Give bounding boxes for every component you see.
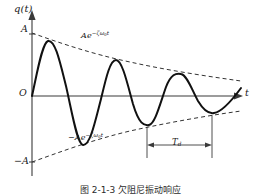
y-tick-label-neg-a: −A [14, 156, 29, 166]
upper-envelope-label: Ae−ζω0t [81, 31, 109, 40]
y-tick-label-a: A [21, 24, 28, 34]
period-label: Td [172, 138, 182, 148]
damped-oscillation-figure: q(t) A O −A t Ae−ζω0t −Ae−ζω0t Td 图 2-1-… [0, 0, 261, 195]
figure-caption: 图 2-1-3 欠阻尼振动响应 [0, 183, 261, 195]
period-arrowhead-left [147, 142, 154, 147]
period-label-sub: d [178, 141, 182, 147]
damped-oscillation-curve [32, 41, 241, 145]
lower-envelope-base: −Ae [68, 133, 86, 142]
upper-exp-t: t [107, 30, 109, 36]
x-axis [32, 92, 243, 99]
plot-canvas [0, 0, 261, 195]
upper-envelope-base: Ae [81, 31, 92, 40]
lower-envelope-label: −Ae−ζω0t [68, 133, 103, 142]
x-axis-label: t [245, 88, 249, 98]
period-arrowhead-right [205, 142, 212, 147]
lower-exp-t: t [101, 132, 103, 138]
lower-envelope-curve [32, 111, 241, 162]
y-axis-label: q(t) [14, 4, 33, 14]
origin-label: O [19, 88, 27, 98]
